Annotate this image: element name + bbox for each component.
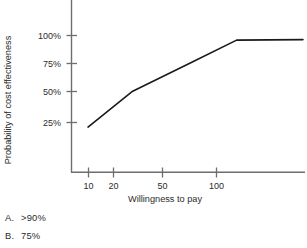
answer-text-a: >90% bbox=[21, 212, 46, 223]
answer-options-list: A. >90% B. 75% bbox=[0, 212, 307, 248]
x-tick-label-10: 10 bbox=[83, 181, 93, 191]
y-tick-labels: 100% 75% 50% 25% bbox=[38, 31, 61, 128]
answer-key-a: A. bbox=[0, 212, 21, 223]
answer-key-b: B. bbox=[0, 230, 21, 241]
y-tick-label-100: 100% bbox=[38, 31, 61, 41]
y-tick-label-50: 50% bbox=[43, 87, 61, 97]
y-axis-title: Probability of cost effectiveness bbox=[3, 35, 13, 164]
x-axis-title: Willingness to pay bbox=[128, 194, 202, 204]
x-tick-label-20: 20 bbox=[108, 181, 118, 191]
chart-axes bbox=[71, 0, 305, 173]
x-tick-label-50: 50 bbox=[157, 181, 167, 191]
answer-text-b: 75% bbox=[21, 230, 40, 241]
x-tick-label-100: 100 bbox=[209, 181, 224, 191]
cost-effectiveness-curve bbox=[88, 40, 303, 128]
answer-option-a[interactable]: A. >90% bbox=[0, 212, 307, 230]
y-tick-label-75: 75% bbox=[43, 59, 61, 69]
y-tick-label-25: 25% bbox=[43, 118, 61, 128]
x-tick-labels: 10 20 50 100 bbox=[83, 181, 224, 191]
answer-option-b[interactable]: B. 75% bbox=[0, 230, 307, 248]
cost-effectiveness-acceptability-chart: 100% 75% 50% 25% 10 20 50 100 Willingnes… bbox=[0, 0, 307, 210]
